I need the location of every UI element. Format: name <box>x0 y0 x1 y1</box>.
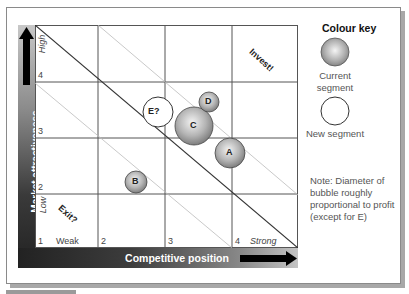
bubble-label-a: A <box>226 147 233 157</box>
bubble-label-d: D <box>205 96 212 106</box>
up-arrow-icon <box>18 25 35 105</box>
x-axis-bar: Competitive position <box>18 248 298 268</box>
legend-title: Colour key <box>322 22 376 34</box>
bubble-label-b: B <box>132 176 139 186</box>
bubble-label-c: C <box>190 120 197 130</box>
x-tick-4: 4 <box>235 236 240 246</box>
high-label: High <box>37 35 47 54</box>
y-tick-2: 2 <box>38 182 43 192</box>
footer-bar <box>6 290 76 294</box>
bubble-size-note: Note: Diameter of bubble roughly proport… <box>310 175 400 223</box>
x-tick-2: 2 <box>101 236 106 246</box>
legend-new-label: New segment <box>305 128 365 140</box>
strong-label: Strong <box>250 236 277 246</box>
y-tick-3: 3 <box>38 126 43 136</box>
bubble-label-e: E? <box>148 106 160 116</box>
weak-label: Weak <box>56 236 79 246</box>
plot-area: E? C D A B Invest! Exit? High Low 4 3 2 … <box>35 25 298 248</box>
low-label: Low <box>38 197 48 214</box>
y-axis-bar: Market attractiveness <box>18 25 35 268</box>
legend-current-label: Current segment <box>305 70 365 94</box>
y-tick-4: 4 <box>38 70 43 80</box>
right-arrow-icon <box>18 248 298 268</box>
x-tick-3: 3 <box>168 236 173 246</box>
y-tick-1: 1 <box>38 236 43 246</box>
